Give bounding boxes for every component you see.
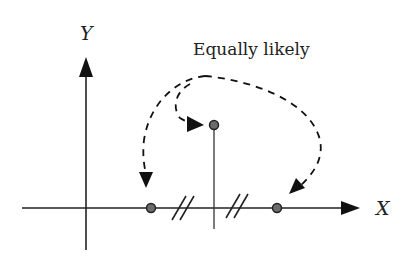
equal-spacing-mark-right xyxy=(226,194,248,218)
equally-likely-diagram: Y X Equally likely xyxy=(0,0,417,258)
dashed-arrow-to-center-point xyxy=(176,84,196,124)
dashed-arrow-to-right-point xyxy=(205,76,321,186)
x-axis-arrow-icon xyxy=(341,201,360,215)
y-axis-label: Y xyxy=(80,22,95,44)
arrowhead-right-icon xyxy=(289,178,305,194)
arrowhead-left-icon xyxy=(139,172,153,188)
center-point xyxy=(210,121,219,130)
diagram-canvas: Y X Equally likely xyxy=(0,0,417,258)
y-axis xyxy=(79,57,93,250)
arrowhead-center-icon xyxy=(187,116,204,132)
x-axis xyxy=(22,201,360,215)
left-point xyxy=(147,204,156,213)
x-axis-label: X xyxy=(374,197,391,219)
right-point xyxy=(273,204,282,213)
y-axis-arrow-icon xyxy=(79,57,93,77)
annotation-label: Equally likely xyxy=(193,39,310,59)
